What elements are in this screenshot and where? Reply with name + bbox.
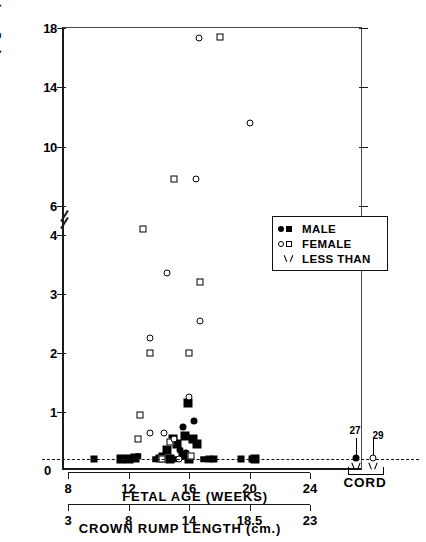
chart-figure: SERUM FSH (ng/ml) 18141064321 0 MALE FEM…	[0, 0, 426, 542]
cord-samples-group: 2729 CORD	[340, 420, 402, 490]
data-point-female	[186, 394, 193, 401]
data-point-female	[147, 350, 154, 357]
y-tick-mark-right	[359, 206, 368, 207]
x-tick-label: 8	[64, 481, 71, 496]
x-tick-label: 24	[303, 481, 317, 496]
y-tick-label: 1	[17, 405, 57, 420]
legend-item-female: FEMALE	[278, 236, 382, 251]
x-tick-mark	[129, 505, 130, 511]
filled-square-icon	[286, 226, 292, 232]
cord-label: CORD	[344, 475, 387, 490]
legend-item-male: MALE	[278, 221, 382, 236]
data-point-female	[136, 411, 143, 418]
legend-label-male: MALE	[302, 223, 336, 235]
legend-label-less-than: LESS THAN	[302, 253, 371, 265]
legend-symbols-female	[278, 241, 300, 247]
y-tick-label: 10	[17, 139, 57, 154]
x-tick-mark	[310, 473, 311, 479]
data-point-female	[139, 226, 146, 233]
x-tick-label: 3	[64, 513, 71, 528]
y-tick-mark	[57, 28, 66, 29]
legend-symbols-male	[278, 226, 300, 232]
y-tick-label: 18	[17, 21, 57, 36]
y-axis-break-marker	[58, 212, 74, 230]
data-point-female	[135, 435, 142, 442]
y-axis-title: SERUM FSH (ng/ml)	[0, 0, 1, 150]
x-tick-label: 23	[303, 513, 317, 528]
y-tick-label: 14	[17, 80, 57, 95]
open-circle-icon	[278, 241, 284, 247]
x-tick-mark	[250, 473, 251, 479]
y-tick-mark-right	[359, 28, 368, 29]
y-tick-mark	[57, 294, 66, 295]
data-point-female	[186, 350, 193, 357]
y-tick-mark	[57, 147, 66, 148]
open-square-icon	[286, 241, 292, 247]
y-tick-label: 3	[17, 287, 57, 302]
data-point-male	[180, 423, 187, 430]
x-tick-mark	[250, 505, 251, 511]
y-tick-mark	[57, 235, 66, 236]
data-point-female	[216, 33, 223, 40]
y-tick-mark	[57, 206, 66, 207]
legend-item-less-than: LESS THAN	[278, 251, 382, 266]
x-tick-mark	[68, 473, 69, 479]
data-point-male	[193, 440, 202, 449]
data-point-female	[197, 279, 204, 286]
data-point-female	[171, 176, 178, 183]
y-tick-mark-right	[359, 147, 368, 148]
x-axis-fetal-age-title: FETAL AGE (WEEKS)	[122, 489, 268, 504]
y-tick-label: 4	[17, 228, 57, 243]
data-point-female	[147, 335, 154, 342]
data-point-female	[195, 35, 202, 42]
cord-sample-number: 27	[349, 425, 360, 436]
x-tick-mark	[68, 505, 69, 511]
x-axis-crown-rump-title: CROWN RUMP LENGTH (cm.)	[79, 521, 281, 536]
legend: MALE FEMALE LESS THAN	[272, 216, 388, 271]
data-point-male	[162, 446, 171, 455]
data-point-female	[192, 176, 199, 183]
data-point-female	[160, 429, 167, 436]
x-tick-mark	[189, 473, 190, 479]
y-axis-zero-label: 0	[44, 463, 51, 478]
cord-bracket	[348, 467, 384, 475]
cord-sample-number: 29	[372, 430, 383, 441]
cord-point-male	[353, 455, 360, 462]
y-tick-mark	[57, 87, 66, 88]
data-point-female	[147, 429, 154, 436]
legend-label-female: FEMALE	[302, 238, 352, 250]
x-tick-mark	[129, 473, 130, 479]
y-tick-label: 6	[17, 199, 57, 214]
y-tick-label: 2	[17, 346, 57, 361]
x-tick-mark	[189, 505, 190, 511]
data-point-female	[197, 317, 204, 324]
less-than-chevron-icon	[283, 255, 293, 263]
filled-circle-icon	[278, 226, 284, 232]
legend-symbols-less-than	[278, 255, 300, 263]
cord-point-female	[370, 455, 377, 462]
data-point-male	[135, 454, 141, 460]
data-point-female	[163, 270, 170, 277]
x-axis-fetal-age: 812162024	[68, 472, 310, 473]
y-tick-mark	[57, 353, 66, 354]
x-tick-mark	[310, 505, 311, 511]
data-point-female	[171, 435, 178, 442]
data-point-male	[191, 417, 198, 424]
y-tick-mark	[57, 412, 66, 413]
y-tick-mark-right	[359, 87, 368, 88]
x-axis-crown-rump-length: 381418.523	[68, 504, 310, 505]
data-point-female	[246, 119, 253, 126]
